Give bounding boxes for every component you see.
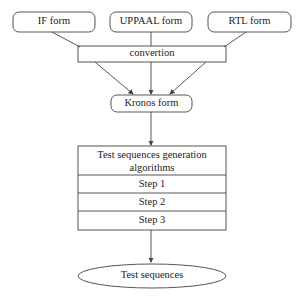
convertion-label: convertion [78,47,226,60]
step-3-label: Step 3 [78,214,226,227]
test-sequences-label: Test sequences [78,269,226,282]
generator-title-line1: Test sequences generation [78,149,226,162]
arrow-to-kronos-left [95,62,133,94]
step-1-label: Step 1 [78,178,226,191]
connector-if [52,32,80,47]
rtl-form-label: RTL form [208,15,291,28]
connector-rtl [224,32,246,47]
kronos-form-label: Kronos form [111,97,192,110]
if-form-label: IF form [13,15,95,28]
arrow-to-kronos-right [170,62,206,94]
generator-title-line2: algorithms [78,162,226,175]
step-2-label: Step 2 [78,196,226,209]
uppaal-form-label: UPPAAL form [110,15,192,28]
